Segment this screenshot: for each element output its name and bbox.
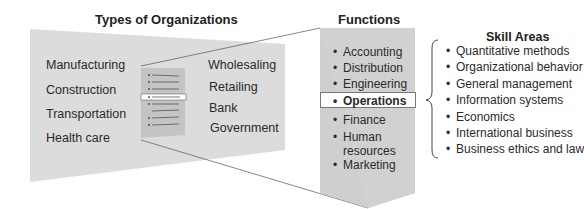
organization-item: Construction [46, 83, 116, 97]
bullet-icon: • [446, 126, 456, 140]
bullet-icon: • [446, 77, 456, 91]
function-item-operations-highlighted: •Operations [320, 92, 416, 108]
function-item-human-resources: •Human resources [333, 130, 396, 158]
function-item-engineering: •Engineering [333, 77, 407, 91]
mini-functions-panel [141, 68, 185, 138]
bullet-icon: • [446, 44, 456, 58]
function-item-marketing: •Marketing [333, 158, 396, 172]
bullet-icon: • [446, 142, 456, 156]
skills-title: Skill Areas [486, 30, 549, 44]
skill-item: •Organizational behavior [446, 60, 583, 74]
bullet-icon: • [333, 45, 343, 59]
function-item-accounting: •Accounting [333, 45, 402, 59]
organization-item: Government [210, 121, 279, 135]
bullet-icon: • [333, 61, 343, 75]
functions-title: Functions [338, 12, 400, 27]
bullet-icon: • [333, 94, 343, 108]
skill-item: •Economics [446, 110, 515, 124]
skill-item: •Information systems [446, 93, 563, 107]
organization-item: Manufacturing [46, 58, 125, 72]
bullet-icon: • [333, 77, 343, 91]
organization-item: Bank [209, 101, 238, 115]
bullet-icon: • [333, 158, 343, 172]
function-item-distribution: •Distribution [333, 61, 403, 75]
bullet-icon: • [333, 113, 343, 127]
bullet-icon: • [446, 93, 456, 107]
organizations-title: Types of Organizations [95, 12, 238, 27]
organization-item: Wholesaling [208, 58, 276, 72]
bracket-brace-icon [426, 40, 438, 158]
function-item-finance: •Finance [333, 113, 386, 127]
skill-item: •Business ethics and law [446, 142, 584, 156]
skill-item: •General management [446, 77, 572, 91]
organization-item: Transportation [46, 107, 126, 121]
bullet-icon: • [333, 130, 343, 144]
bullet-icon: • [446, 110, 456, 124]
skill-item: •Quantitative methods [446, 44, 569, 58]
organization-item: Health care [46, 131, 110, 145]
organization-item: Retailing [209, 80, 258, 94]
bullet-icon: • [446, 60, 456, 74]
skill-item: •International business [446, 126, 573, 140]
